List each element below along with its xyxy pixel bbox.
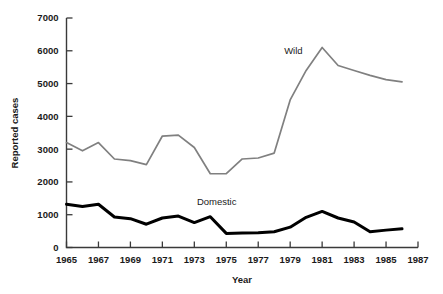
x-tick-label-1979: 1979 <box>280 254 301 265</box>
x-tick-label-1967: 1967 <box>88 254 109 265</box>
x-tick-label-1977: 1977 <box>248 254 269 265</box>
y-tick-label-0: 0 <box>53 242 58 253</box>
series-label-wild: Wild <box>284 45 302 56</box>
chart-container: 01000200030004000500060007000 1965196719… <box>0 0 443 294</box>
series-annotations: WildDomestic <box>197 45 303 207</box>
x-tick-label-1969: 1969 <box>120 254 141 265</box>
y-tick-label-6000: 6000 <box>37 45 58 56</box>
x-tick-label-1965: 1965 <box>56 254 78 265</box>
y-tick-label-7000: 7000 <box>37 12 58 23</box>
y-axis-line <box>67 18 419 248</box>
x-tick-label-1971: 1971 <box>152 254 174 265</box>
x-tick-label-1987: 1987 <box>407 254 428 265</box>
y-tick-label-4000: 4000 <box>37 111 58 122</box>
y-tick-label-2000: 2000 <box>37 176 58 187</box>
x-axis-ticks <box>67 242 419 248</box>
x-tick-label-1975: 1975 <box>216 254 238 265</box>
series-label-domestic: Domestic <box>197 196 237 207</box>
x-axis-title: Year <box>232 274 252 285</box>
y-tick-label-1000: 1000 <box>37 209 58 220</box>
x-tick-label-1981: 1981 <box>312 254 334 265</box>
line-chart: 01000200030004000500060007000 1965196719… <box>0 0 443 294</box>
x-axis-tick-labels: 1965196719691971197319751977197919811983… <box>56 254 429 265</box>
x-tick-label-1985: 1985 <box>375 254 397 265</box>
x-tick-label-1973: 1973 <box>184 254 205 265</box>
y-axis-ticks <box>67 18 73 248</box>
series-line-domestic <box>67 204 403 233</box>
y-axis-title: Reported cases <box>9 98 20 169</box>
y-tick-label-5000: 5000 <box>37 78 58 89</box>
axes-group <box>67 18 419 248</box>
series-line-wild <box>67 48 403 174</box>
y-axis-tick-labels: 01000200030004000500060007000 <box>37 12 58 253</box>
x-tick-label-1983: 1983 <box>344 254 365 265</box>
y-tick-label-3000: 3000 <box>37 144 58 155</box>
